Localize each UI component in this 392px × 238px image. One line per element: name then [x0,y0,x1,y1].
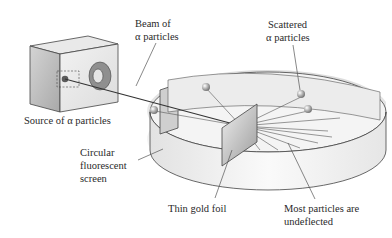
leader-beam [136,43,156,86]
label-scattered: Scattered α particles [266,19,310,43]
alpha-source-box [30,36,118,112]
particle [304,105,312,113]
particle [297,90,305,98]
label-undeflected: Most particles are undeflected [284,203,362,227]
fluorescent-screen [147,70,386,190]
label-beam: Beam of α particles [135,18,179,42]
particle [150,106,158,114]
particle [202,83,210,91]
label-screen: Circular fluorescent screen [80,147,129,184]
label-source: Source of α particles [24,115,111,126]
aperture-hole [93,69,103,83]
rutherford-diagram: Beam of α particles Scattered α particle… [0,0,392,238]
label-foil: Thin gold foil [168,203,226,214]
